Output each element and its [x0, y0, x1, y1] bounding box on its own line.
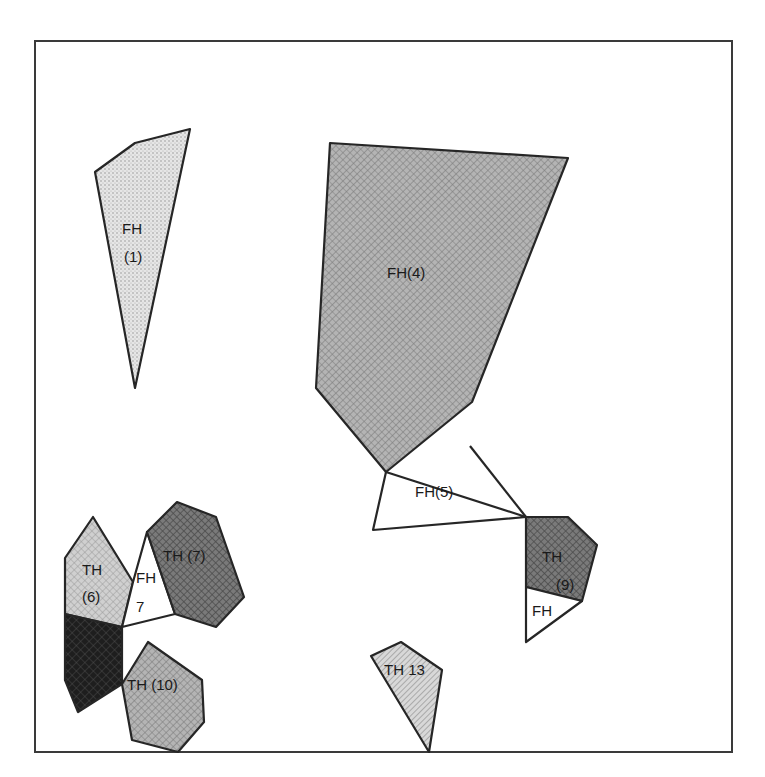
label-th7: TH (7) — [163, 547, 206, 564]
label-fh5: FH(5) — [415, 483, 453, 500]
region-diagram: FH (1) FH(4) FH(5) TH (9) FH TH (6) FH 7… — [0, 0, 765, 777]
region-fh5 — [373, 472, 526, 530]
label-th9-a: TH — [542, 548, 562, 565]
region-fh1 — [95, 129, 190, 388]
label-th13: TH 13 — [384, 661, 425, 678]
region-th10 — [122, 642, 204, 752]
region-fh4 — [316, 143, 568, 472]
region-th13 — [371, 642, 442, 752]
label-th10: TH (10) — [127, 676, 178, 693]
label-fh9: FH — [532, 602, 552, 619]
label-fh7-b: 7 — [136, 598, 144, 615]
label-fh7-a: FH — [136, 569, 156, 586]
label-fh4: FH(4) — [387, 264, 425, 281]
label-fh1-b: (1) — [124, 248, 142, 265]
label-th6-a: TH — [82, 561, 102, 578]
region-dark — [65, 614, 122, 712]
label-th9-b: (9) — [556, 576, 574, 593]
label-th6-b: (6) — [82, 588, 100, 605]
label-fh1-a: FH — [122, 220, 142, 237]
